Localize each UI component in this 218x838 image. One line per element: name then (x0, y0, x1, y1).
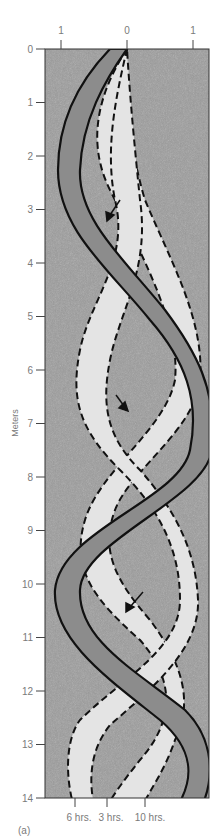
y-tick-label: 10 (22, 579, 34, 590)
y-tick-label: 6 (27, 365, 33, 376)
helix-diagram: 1 0 1 01234567891011121314 Meters 6 hrs.… (0, 0, 218, 838)
y-tick-label: 5 (27, 311, 33, 322)
y-axis: 01234567891011121314 (22, 44, 45, 804)
y-tick-label: 9 (27, 525, 33, 536)
label-10hrs: 10 hrs. (135, 812, 166, 823)
y-axis-title: Meters (10, 409, 20, 437)
y-tick-label: 7 (27, 418, 33, 429)
bottom-axis (75, 798, 145, 807)
y-tick-label: 2 (27, 151, 33, 162)
y-tick-label: 3 (27, 204, 33, 215)
label-6hrs: 6 hrs. (66, 812, 91, 823)
label-3hrs: 3 hrs. (98, 812, 123, 823)
top-tick-label: 0 (124, 25, 130, 36)
panel-label: (a) (18, 825, 30, 836)
y-tick-label: 4 (27, 258, 33, 269)
top-tick-label: 1 (58, 25, 64, 36)
y-tick-label: 1 (27, 97, 33, 108)
y-tick-label: 11 (23, 632, 34, 643)
y-tick-label: 8 (27, 472, 33, 483)
y-tick-label: 13 (22, 739, 34, 750)
top-tick-label: 1 (190, 25, 196, 36)
y-tick-label: 0 (27, 44, 33, 55)
y-tick-label: 14 (22, 793, 34, 804)
top-axis (61, 40, 193, 49)
y-tick-label: 12 (22, 686, 34, 697)
